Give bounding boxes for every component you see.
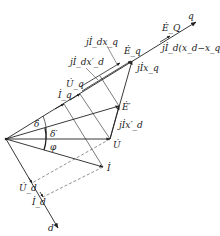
Uq-label: U̇_q: [66, 80, 84, 89]
Iq-label: İ_q: [58, 91, 72, 100]
jIxd-prime-label: jİx′_d: [119, 121, 143, 130]
q-axis-label: q: [188, 12, 194, 21]
Iq-marker: [55, 104, 64, 109]
origin-point: [5, 138, 8, 141]
jIdxq-label: jİ_dx_q: [86, 38, 118, 47]
jIdxd-prime-label: jİ_dx′_d: [70, 58, 104, 67]
Eq-label: Ė_q: [124, 47, 141, 56]
delta-label: δ: [34, 120, 39, 129]
d-axis-label: d: [48, 224, 54, 233]
delta-prime-arc: [45, 128, 46, 139]
phi-label: φ: [50, 143, 56, 152]
E-prime-label: Ė′: [122, 103, 131, 112]
Ud-label: U̇_d: [19, 184, 37, 193]
E-prime-phasor: [6, 106, 119, 139]
jId-xd-xq-label: jİ_d(x_d−x_q): [162, 44, 220, 53]
U-label: U̇: [113, 141, 121, 150]
Id-label: İ_d: [32, 198, 46, 207]
I-label: İ: [107, 164, 111, 173]
EQ-label: Ė_Q: [162, 24, 180, 33]
delta-prime-label: δ′: [50, 130, 57, 139]
phi-arc: [44, 139, 46, 150]
projection-line: [100, 76, 119, 106]
projection-dashed: [32, 139, 110, 183]
jIxq-label: jİx_q: [137, 64, 159, 73]
leader-line: [86, 68, 98, 80]
leader-line: [107, 46, 118, 66]
